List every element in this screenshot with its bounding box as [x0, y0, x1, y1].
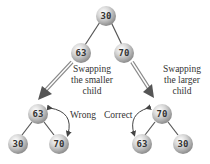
right-result-tree: 70 63 30 Correct	[104, 104, 193, 154]
node-left: 63	[71, 43, 91, 63]
svg-text:63: 63	[76, 48, 87, 58]
swap-curve-icon	[50, 108, 69, 134]
verdict-correct: Correct	[104, 110, 133, 120]
caption-right: Swapping the larger child	[163, 64, 201, 96]
svg-text:30: 30	[13, 139, 24, 149]
left-result-tree: 63 30 70 Wrong	[8, 104, 96, 154]
caption-left: Swapping the smaller child	[71, 64, 114, 96]
svg-text:70: 70	[119, 48, 130, 58]
svg-text:63: 63	[33, 109, 44, 119]
svg-text:child: child	[83, 86, 102, 96]
swap-curve-icon	[133, 108, 148, 134]
svg-text:the larger: the larger	[164, 75, 201, 85]
svg-text:the smaller: the smaller	[71, 75, 114, 85]
svg-text:70: 70	[54, 139, 65, 149]
svg-text:70: 70	[157, 109, 168, 119]
verdict-wrong: Wrong	[70, 110, 96, 120]
diagram-canvas: 30 63 70 Swapping the smaller child Swap…	[0, 0, 210, 164]
svg-text:30: 30	[178, 139, 189, 149]
top-tree: 30 63 70	[71, 6, 134, 63]
node-root: 30	[96, 6, 116, 26]
svg-text:63: 63	[137, 139, 148, 149]
node-right: 70	[114, 43, 134, 63]
svg-text:Swapping: Swapping	[163, 64, 201, 74]
svg-text:child: child	[173, 86, 192, 96]
svg-text:30: 30	[101, 11, 112, 21]
svg-text:Swapping: Swapping	[73, 64, 111, 74]
